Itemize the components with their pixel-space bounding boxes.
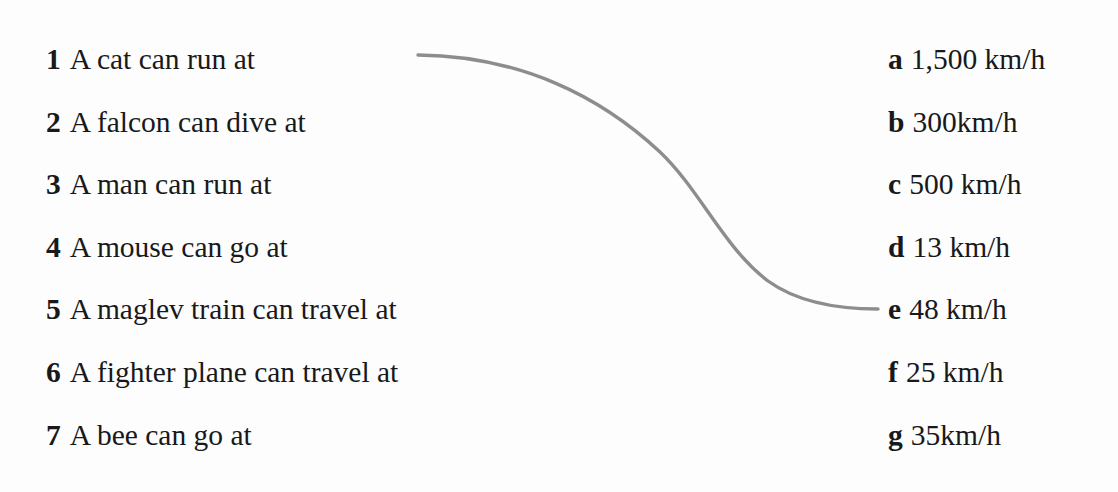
answer-row[interactable]: c500 km/h <box>888 153 1116 216</box>
prompt-label: A bee can go at <box>70 419 252 451</box>
answer-row[interactable]: a1,500 km/h <box>888 28 1116 91</box>
answer-label: 1,500 km/h <box>911 43 1045 75</box>
answer-marker: b <box>888 106 905 138</box>
worksheet: 1A cat can run at 2A falcon can dive at … <box>0 0 1118 492</box>
prompt-row[interactable]: 7A bee can go at <box>46 404 566 467</box>
prompt-marker: 6 <box>46 356 61 388</box>
answer-marker: a <box>888 43 903 75</box>
answer-row[interactable]: f25 km/h <box>888 341 1116 404</box>
prompt-column: 1A cat can run at 2A falcon can dive at … <box>46 28 566 466</box>
answer-label: 35km/h <box>911 419 1001 451</box>
prompt-marker: 5 <box>46 293 61 325</box>
prompt-row[interactable]: 6A fighter plane can travel at <box>46 341 566 404</box>
prompt-row[interactable]: 4A mouse can go at <box>46 216 566 279</box>
answer-column: a1,500 km/h b300km/h c500 km/h d13 km/h … <box>888 28 1116 466</box>
answer-marker: f <box>888 356 898 388</box>
answer-label: 13 km/h <box>913 231 1011 263</box>
answer-label: 500 km/h <box>909 168 1021 200</box>
answer-marker: d <box>888 231 905 263</box>
prompt-label: A man can run at <box>70 168 272 200</box>
answer-label: 48 km/h <box>909 293 1007 325</box>
prompt-marker: 2 <box>46 106 61 138</box>
answer-label: 25 km/h <box>906 356 1004 388</box>
answer-row[interactable]: e48 km/h <box>888 278 1116 341</box>
answer-row[interactable]: d13 km/h <box>888 216 1116 279</box>
answer-row[interactable]: b300km/h <box>888 91 1116 154</box>
prompt-marker: 1 <box>46 43 61 75</box>
answer-marker: g <box>888 419 903 451</box>
prompt-label: A cat can run at <box>70 43 255 75</box>
answer-label: 300km/h <box>913 106 1018 138</box>
prompt-label: A falcon can dive at <box>70 106 306 138</box>
prompt-row[interactable]: 2A falcon can dive at <box>46 91 566 154</box>
prompt-marker: 3 <box>46 168 61 200</box>
prompt-label: A maglev train can travel at <box>70 293 397 325</box>
prompt-row[interactable]: 5A maglev train can travel at <box>46 278 566 341</box>
prompt-row[interactable]: 3A man can run at <box>46 153 566 216</box>
prompt-marker: 7 <box>46 419 61 451</box>
prompt-row[interactable]: 1A cat can run at <box>46 28 566 91</box>
prompt-marker: 4 <box>46 231 61 263</box>
prompt-label: A fighter plane can travel at <box>70 356 398 388</box>
answer-marker: c <box>888 168 901 200</box>
answer-row[interactable]: g35km/h <box>888 404 1116 467</box>
prompt-label: A mouse can go at <box>70 231 288 263</box>
answer-marker: e <box>888 293 901 325</box>
